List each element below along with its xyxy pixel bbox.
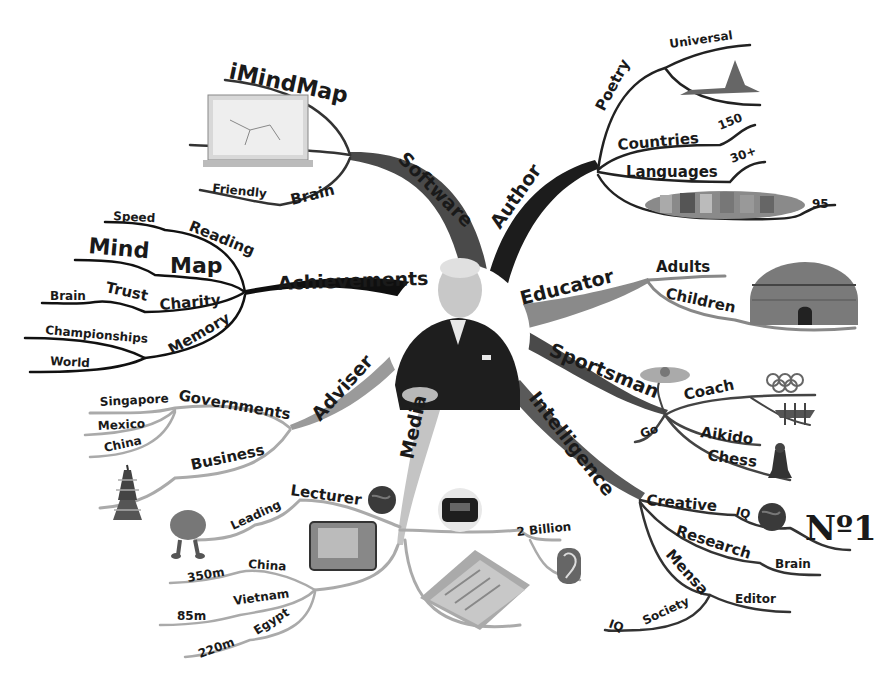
radio-image: [438, 488, 482, 532]
laptop-image: [203, 95, 313, 167]
label-trust: Trust: [104, 278, 150, 304]
label-friendly: Friendly: [212, 181, 268, 201]
label-two-billion: 2 Billion: [516, 519, 572, 539]
brain-character-image: [170, 510, 206, 559]
label-leading: Leading: [228, 497, 283, 532]
label-vietnam-value: 85m: [177, 609, 206, 623]
label-charity: Charity: [159, 291, 222, 314]
label-business: Business: [189, 441, 266, 474]
label-mind: Mind: [88, 233, 151, 263]
line-chess: [665, 415, 790, 480]
label-languages: Languages: [626, 163, 718, 181]
label-vietnam: Vietnam: [232, 586, 290, 608]
line-adults: [648, 276, 725, 280]
globe-image-intelligence: [758, 503, 786, 531]
label-world: World: [50, 354, 90, 370]
label-chess: Chess: [706, 446, 758, 471]
label-society-iq: IQ: [607, 617, 626, 635]
label-creative: Creative: [646, 491, 718, 515]
label-research-brain: Brain: [775, 557, 811, 571]
label-china-adviser: China: [103, 433, 143, 455]
label-software-brain: Brain: [289, 181, 337, 209]
label-memory: Memory: [165, 309, 233, 359]
label-achievements-brain: Brain: [50, 289, 86, 303]
label-lecturer: Lecturer: [289, 481, 363, 509]
ear-image: [557, 548, 581, 584]
concorde-image: [680, 60, 760, 95]
tv-image: [310, 522, 376, 570]
label-map: Map: [170, 253, 223, 278]
label-languages-value: 30+: [728, 144, 758, 166]
label-china-media: China: [248, 557, 287, 574]
rowing-boat-image: [775, 403, 815, 425]
label-countries-value: 150: [716, 110, 744, 132]
label-intelligence: Intelligence: [525, 387, 620, 500]
label-mexico: Mexico: [97, 417, 145, 433]
label-iq: IQ: [734, 504, 752, 521]
label-egypt-value: 220m: [196, 635, 236, 661]
label-governments: Governments: [177, 386, 292, 423]
royal-albert-hall-image: [750, 262, 858, 325]
label-poetry: Poetry: [592, 56, 634, 114]
books-image: [645, 191, 805, 219]
chess-piece-image: [768, 443, 792, 478]
globe-image-media: [368, 486, 396, 514]
label-singapore: Singapore: [99, 391, 169, 409]
label-adults: Adults: [656, 258, 710, 276]
label-software: Software: [394, 147, 478, 231]
mind-map-canvas: Software Author Achievements Educator Sp…: [0, 0, 877, 681]
olympic-rings-image: [767, 374, 803, 392]
label-aikido: Aikido: [699, 423, 754, 448]
newspapers-image: [420, 550, 530, 630]
label-no1: Nº1: [805, 508, 877, 548]
label-books-value: 95: [812, 197, 829, 211]
label-go: Go: [638, 421, 660, 440]
label-society: Society: [640, 594, 691, 628]
label-children: Children: [664, 284, 737, 316]
pagoda-image: [113, 465, 142, 520]
label-china-value: 350m: [186, 565, 225, 585]
label-speed: Speed: [113, 209, 156, 225]
label-countries: Countries: [617, 129, 700, 154]
label-editor: Editor: [735, 592, 776, 606]
